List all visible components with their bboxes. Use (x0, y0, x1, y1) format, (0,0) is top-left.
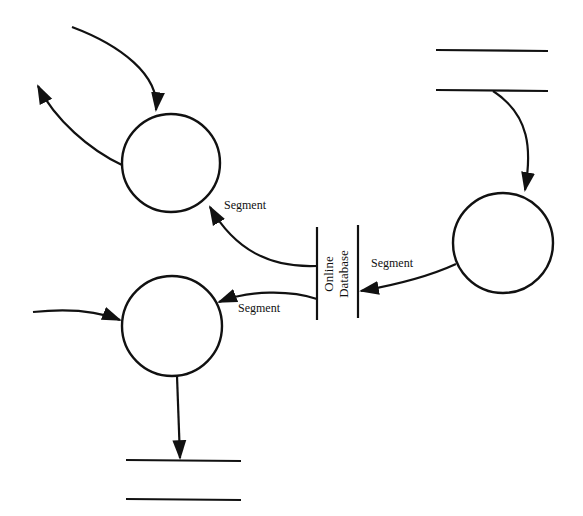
store-bottom-line-bottom (126, 499, 241, 500)
store-bottom-line-top (126, 460, 241, 461)
flow-arrow-to-bottom-store (177, 376, 180, 458)
process-circle-right (453, 193, 553, 293)
flow-label-segment-right: Segment (371, 256, 414, 270)
svg-text:Database: Database (336, 250, 351, 298)
process-circle-top-left (122, 114, 220, 212)
store-top-right-line-top (436, 50, 548, 51)
store-top-right-line-bottom (436, 90, 548, 91)
flow-arrow-store-to-right-process (493, 91, 528, 190)
svg-text:Online: Online (321, 256, 336, 292)
flow-label-segment-top: Segment (224, 198, 267, 212)
flow-arrow-out-of-top-left-process (38, 86, 122, 165)
online-database-label: Online Database (321, 250, 351, 298)
process-circle-bottom-left (122, 276, 222, 376)
flow-label-segment-bottom: Segment (238, 301, 281, 315)
flow-arrow-into-top-left-process (72, 27, 156, 110)
flow-arrow-database-to-top-left (210, 207, 317, 266)
data-flow-diagram: Segment Segment Online Database Segment (0, 0, 583, 516)
flow-arrow-into-bottom-left-process (33, 310, 120, 320)
